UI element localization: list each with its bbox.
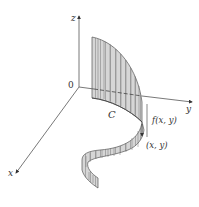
curve-c-label: C	[108, 109, 116, 120]
curtain-back-panel	[92, 37, 142, 122]
x-axis	[16, 87, 79, 173]
origin-label: 0	[68, 80, 74, 90]
curtain-surface-diagram: z 0 y x C f(x, y) (x, y)	[0, 0, 199, 207]
height-f-label: f(x, y)	[151, 115, 177, 125]
point-xy-label: (x, y)	[146, 140, 168, 150]
y-axis-label: y	[185, 104, 192, 114]
x-axis-label: x	[8, 168, 13, 178]
z-axis-label: z	[70, 13, 76, 23]
